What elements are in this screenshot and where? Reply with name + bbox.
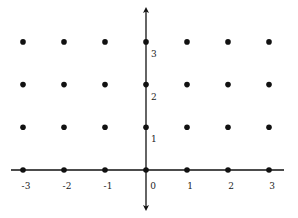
lattice-point: [266, 125, 272, 131]
y-tick-label: 3: [151, 49, 157, 59]
lattice-point: [102, 125, 108, 131]
lattice-point: [143, 167, 149, 173]
y-tick-labels: 123: [151, 49, 157, 144]
lattice-point: [225, 39, 231, 45]
lattice-point: [266, 82, 272, 88]
y-tick-label: 1: [151, 134, 157, 144]
lattice-point: [225, 167, 231, 173]
lattice-point: [266, 39, 272, 45]
x-tick-label: 3: [269, 181, 275, 191]
y-tick-label: 2: [151, 92, 157, 102]
lattice-point: [225, 82, 231, 88]
lattice-point: [61, 167, 67, 173]
lattice-point: [61, 125, 67, 131]
lattice-point: [143, 125, 149, 131]
lattice-point: [143, 39, 149, 45]
lattice-point: [102, 82, 108, 88]
x-tick-label: -3: [22, 181, 31, 191]
lattice-point: [20, 39, 26, 45]
x-tick-labels: -3-2-10123: [22, 181, 276, 191]
lattice-point: [184, 39, 190, 45]
lattice-point: [184, 167, 190, 173]
x-tick-label: -2: [63, 181, 72, 191]
x-tick-label: 0: [150, 181, 156, 191]
x-tick-label: 2: [228, 181, 234, 191]
lattice-point: [143, 82, 149, 88]
lattice-point: [102, 167, 108, 173]
lattice-point: [20, 82, 26, 88]
lattice-point: [184, 82, 190, 88]
lattice-point: [266, 167, 272, 173]
y-axis: [143, 7, 149, 211]
lattice-point: [225, 125, 231, 131]
lattice-point: [184, 125, 190, 131]
x-tick-label: -1: [104, 181, 113, 191]
lattice-point: [102, 39, 108, 45]
lattice-diagram: -3-2-10123 123: [0, 0, 298, 218]
lattice-point: [20, 125, 26, 131]
lattice-point: [20, 167, 26, 173]
lattice-point: [61, 82, 67, 88]
x-tick-label: 1: [187, 181, 193, 191]
lattice-point: [61, 39, 67, 45]
